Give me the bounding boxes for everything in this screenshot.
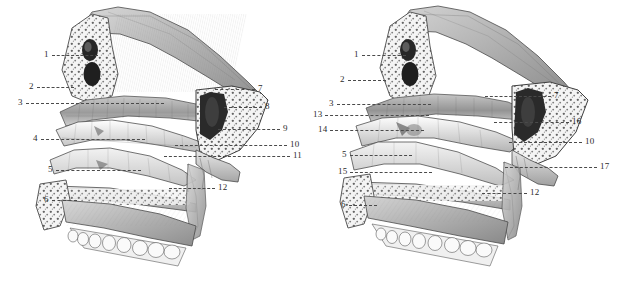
label-left-panel-12: 12 bbox=[218, 183, 227, 192]
leader-line bbox=[175, 145, 287, 146]
leader-line bbox=[350, 155, 412, 156]
label-number: 12 bbox=[530, 188, 539, 197]
label-left-panel-11: 11 bbox=[293, 151, 302, 160]
leader-line bbox=[325, 115, 429, 116]
leader-line bbox=[494, 122, 569, 123]
label-left-panel-9: 9 bbox=[283, 124, 288, 133]
label-right-panel-14: 14 bbox=[318, 125, 327, 134]
label-number: 8 bbox=[265, 102, 270, 111]
leader-line bbox=[41, 139, 145, 140]
label-left-panel-7: 7 bbox=[258, 84, 263, 93]
anatomy-figure: 12345678910111212313145156716101712 bbox=[0, 0, 620, 286]
label-left-panel-4: 4 bbox=[33, 134, 38, 143]
label-number: 17 bbox=[600, 162, 609, 171]
leader-line bbox=[349, 205, 377, 206]
leader-line bbox=[218, 129, 280, 130]
sphenoid-pterygoid-wedge bbox=[196, 86, 268, 160]
leader-line bbox=[350, 172, 432, 173]
label-right-panel-5: 5 bbox=[342, 150, 347, 159]
label-number: 12 bbox=[218, 183, 227, 192]
label-number: 2 bbox=[29, 82, 34, 91]
leader-line bbox=[215, 89, 255, 90]
label-number: 6 bbox=[341, 200, 346, 209]
leader-line bbox=[348, 80, 386, 81]
label-right-panel-16: 16 bbox=[572, 117, 581, 126]
label-right-panel-3: 3 bbox=[329, 99, 334, 108]
label-number: 10 bbox=[290, 140, 299, 149]
label-right-panel-2: 2 bbox=[340, 75, 345, 84]
left-panel bbox=[0, 0, 310, 286]
label-number: 2 bbox=[340, 75, 345, 84]
frontal-sinus-block bbox=[380, 12, 436, 106]
leader-line bbox=[56, 170, 141, 171]
label-number: 13 bbox=[313, 110, 322, 119]
label-number: 3 bbox=[329, 99, 334, 108]
left-panel-illustration bbox=[0, 0, 310, 286]
label-left-panel-3: 3 bbox=[18, 98, 23, 107]
label-right-panel-17: 17 bbox=[600, 162, 609, 171]
label-left-panel-8: 8 bbox=[265, 102, 270, 111]
label-right-panel-13: 13 bbox=[313, 110, 322, 119]
label-left-panel-6: 6 bbox=[44, 195, 49, 204]
label-number: 4 bbox=[33, 134, 38, 143]
label-number: 5 bbox=[48, 165, 53, 174]
leader-line bbox=[52, 200, 77, 201]
inferior-concha bbox=[50, 148, 196, 186]
label-number: 16 bbox=[572, 117, 581, 126]
frontal-sinus-block bbox=[62, 14, 118, 104]
leader-line bbox=[509, 142, 582, 143]
leader-line bbox=[164, 156, 290, 157]
label-left-panel-5: 5 bbox=[48, 165, 53, 174]
leader-line bbox=[337, 104, 431, 105]
ethmoid-cell-cavity bbox=[402, 62, 419, 86]
leader-line bbox=[485, 96, 551, 97]
label-left-panel-1: 1 bbox=[44, 50, 49, 59]
label-right-panel-6: 6 bbox=[341, 200, 346, 209]
label-left-panel-2: 2 bbox=[29, 82, 34, 91]
middle-concha bbox=[56, 120, 206, 152]
leader-line bbox=[52, 55, 98, 56]
label-right-panel-7: 7 bbox=[554, 91, 559, 100]
label-right-panel-10: 10 bbox=[585, 137, 594, 146]
right-panel-illustration bbox=[310, 0, 620, 286]
leader-line bbox=[482, 193, 527, 194]
leader-line bbox=[330, 130, 424, 131]
label-number: 9 bbox=[283, 124, 288, 133]
leader-line bbox=[224, 107, 262, 108]
label-number: 15 bbox=[338, 167, 347, 176]
label-number: 1 bbox=[354, 50, 359, 59]
label-left-panel-10: 10 bbox=[290, 140, 299, 149]
label-right-panel-1: 1 bbox=[354, 50, 359, 59]
label-number: 1 bbox=[44, 50, 49, 59]
right-panel bbox=[310, 0, 620, 286]
leader-line bbox=[37, 87, 74, 88]
label-number: 11 bbox=[293, 151, 302, 160]
label-number: 7 bbox=[554, 91, 559, 100]
label-number: 5 bbox=[342, 150, 347, 159]
leader-line bbox=[169, 188, 215, 189]
label-number: 3 bbox=[18, 98, 23, 107]
label-number: 14 bbox=[318, 125, 327, 134]
leader-line bbox=[26, 103, 164, 104]
label-right-panel-15: 15 bbox=[338, 167, 347, 176]
leader-line bbox=[505, 167, 597, 168]
label-number: 6 bbox=[44, 195, 49, 204]
leader-line bbox=[362, 55, 406, 56]
label-right-panel-12: 12 bbox=[530, 188, 539, 197]
ethmoid-cell-cavity bbox=[84, 62, 101, 86]
label-number: 7 bbox=[258, 84, 263, 93]
label-number: 10 bbox=[585, 137, 594, 146]
